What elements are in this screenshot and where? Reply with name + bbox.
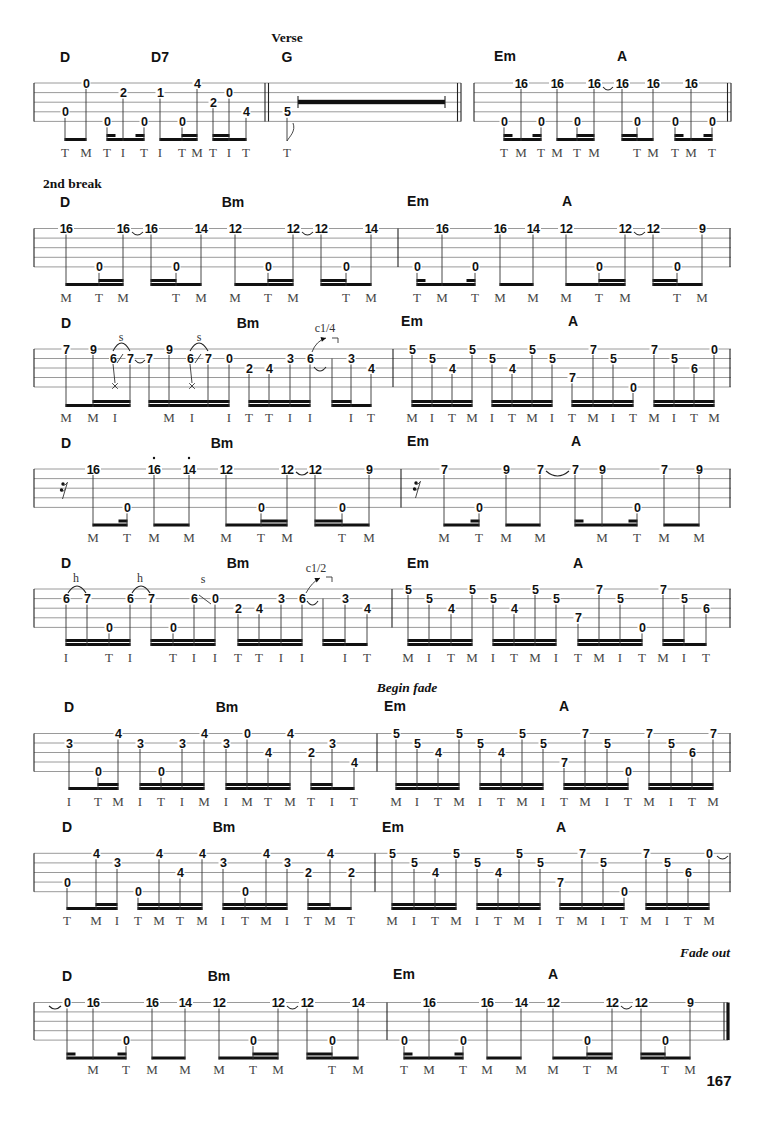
picking-finger: M — [146, 1062, 158, 1077]
eighth-beam — [653, 283, 703, 286]
sixteenth-beam — [321, 279, 347, 282]
section-label: Fade out — [679, 945, 731, 960]
tab-note: 3I — [328, 737, 337, 809]
eighth-beam — [578, 643, 643, 646]
tab-note: 9M — [696, 222, 708, 305]
picking-finger: I — [192, 650, 196, 665]
fret-number: 0 — [634, 501, 641, 515]
picking-finger: M — [183, 530, 195, 545]
picking-finger: I — [665, 913, 669, 928]
fret-number: 14 — [515, 996, 528, 1010]
sixteenth-beam — [140, 783, 205, 786]
fret-number: 0 — [674, 260, 681, 274]
picking-finger: M — [241, 794, 253, 809]
eighth-beam — [408, 643, 473, 646]
fret-number: 12 — [287, 222, 300, 236]
picking-finger: T — [61, 145, 69, 160]
fret-number: 5 — [456, 727, 463, 741]
tab-note: 0T — [671, 115, 680, 160]
fret-number: 16 — [117, 222, 130, 236]
sixteenth-beam — [504, 134, 513, 137]
picking-finger: M — [560, 290, 572, 305]
tie-arc — [717, 856, 728, 859]
fret-number: 12 — [647, 222, 660, 236]
fret-number: 0 — [711, 343, 718, 357]
fret-number: 16 — [515, 77, 528, 91]
tab-note: 1I — [156, 86, 165, 159]
tie-arc — [603, 87, 613, 90]
picking-finger: M — [402, 650, 414, 665]
picking-finger: M — [647, 145, 659, 160]
fret-number: 2 — [305, 866, 312, 880]
chord-symbol: Em — [407, 433, 429, 449]
chord-symbol: A — [556, 819, 566, 835]
fret-number: 0 — [414, 260, 421, 274]
fret-number: 7 — [579, 847, 586, 861]
tab-system: DD7GEmA0T0M0T2I0T1I0T4M2T0I4T5T0T16M0T16… — [34, 48, 731, 160]
tab-note: 9M — [596, 463, 608, 545]
fret-number: 0 — [141, 115, 148, 129]
fret-number: 0 — [64, 996, 71, 1010]
sixteenth-beam — [98, 783, 119, 786]
tab-note: 5T — [283, 105, 292, 159]
tab-note: 6T — [688, 746, 697, 809]
picking-finger: M — [438, 530, 450, 545]
fret-number: 4 — [263, 847, 270, 861]
tab-note: 5M — [466, 583, 478, 665]
chord-symbol: Bm — [237, 315, 260, 331]
picking-finger: M — [529, 650, 541, 665]
tab-note: 12M — [218, 463, 234, 545]
ghost-x-icon — [112, 383, 118, 389]
tab-note: 4T — [242, 105, 251, 159]
sixteenth-beam — [622, 134, 638, 137]
eighth-beam — [235, 283, 294, 286]
sixteenth-beam — [654, 400, 715, 403]
tab-staff — [34, 349, 731, 387]
picking-finger: I — [279, 650, 283, 665]
picking-finger: M — [198, 794, 210, 809]
tab-note: 16M — [146, 463, 162, 545]
picking-finger: T — [475, 530, 483, 545]
picking-finger: M — [87, 1062, 99, 1077]
picking-finger: M — [453, 794, 465, 809]
fret-number: 9 — [599, 463, 606, 477]
tab-note: 2I — [119, 86, 128, 159]
eighth-beam — [213, 138, 247, 141]
tab-note: 6I — [190, 592, 199, 664]
picking-finger: T — [157, 794, 165, 809]
eighth-beam — [492, 404, 553, 407]
sixteenth-beam — [151, 279, 177, 282]
fret-number: 0 — [179, 115, 186, 129]
fret-number: 1 — [157, 86, 164, 100]
eighth-beam — [641, 1057, 691, 1060]
tab-note: 5M — [529, 583, 541, 665]
tab-note: 12M — [545, 996, 561, 1077]
sixteenth-beam — [238, 639, 303, 642]
fret-number: 0 — [173, 260, 180, 274]
tab-note: 7M — [640, 847, 652, 928]
fret-number: 5 — [549, 352, 556, 366]
tab-note: 4M — [90, 847, 102, 928]
picking-finger: T — [629, 410, 637, 425]
fret-number: 4 — [364, 602, 371, 616]
fret-number: 0 — [258, 501, 265, 515]
eighth-beam — [396, 787, 460, 790]
picking-finger: I — [138, 794, 142, 809]
fret-number: 5 — [610, 352, 617, 366]
fret-number: 4 — [448, 602, 455, 616]
fret-number: 0 — [706, 847, 713, 861]
tab-note: 0T — [94, 765, 103, 809]
fret-number: 3 — [66, 737, 73, 751]
fret-number: 6 — [127, 592, 134, 606]
picking-finger: T — [494, 913, 502, 928]
page-number: 167 — [706, 1072, 731, 1089]
picking-finger: I — [227, 145, 231, 160]
fret-number: 0 — [460, 1034, 467, 1048]
fret-number: 0 — [104, 115, 111, 129]
eighth-beam — [65, 138, 87, 141]
chord-symbol: Em — [407, 555, 429, 571]
picking-finger: M — [390, 794, 402, 809]
tab-note: 3I — [277, 592, 286, 664]
staccato-dot-icon — [188, 457, 190, 459]
fret-number: 4 — [199, 847, 206, 861]
